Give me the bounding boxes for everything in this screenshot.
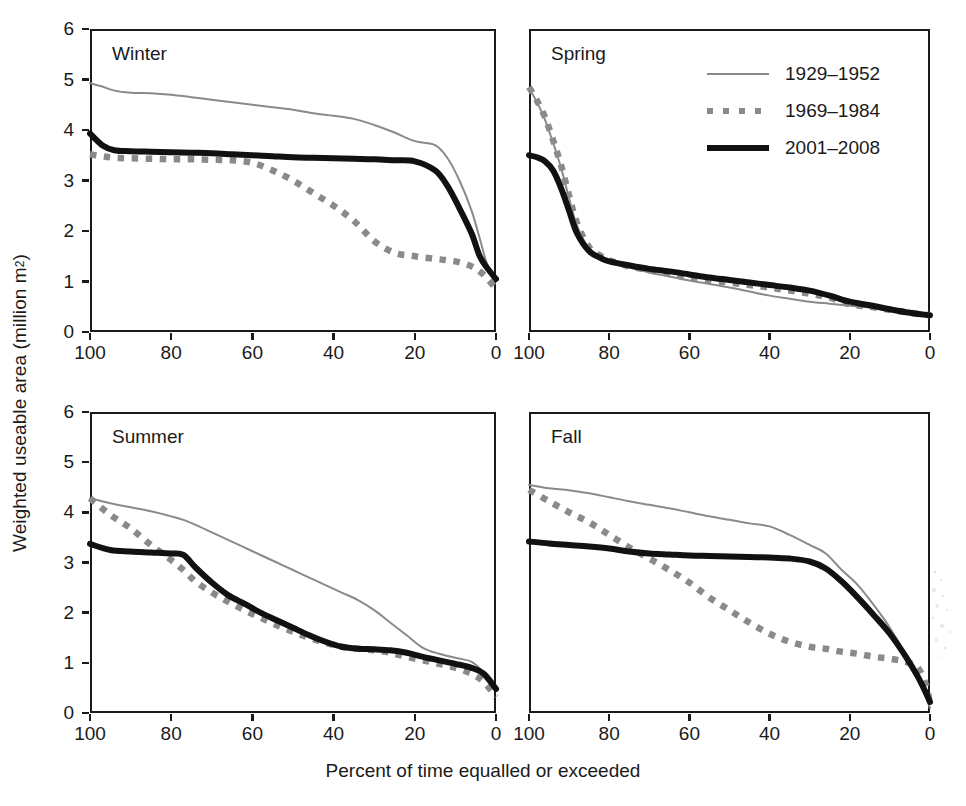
x-tick-mark xyxy=(251,714,254,721)
x-tick-mark xyxy=(849,714,852,721)
y-tick-label: 5 xyxy=(48,70,74,89)
series-line-2001-2008 xyxy=(90,134,496,279)
x-tick-label: 100 xyxy=(60,724,120,743)
x-tick-label: 80 xyxy=(141,343,201,362)
x-tick-label: 80 xyxy=(579,343,639,362)
x-tick-label: 60 xyxy=(222,343,282,362)
x-tick-mark xyxy=(528,333,531,340)
x-tick-label: 40 xyxy=(304,343,364,362)
series-line-2001-2008 xyxy=(529,155,930,315)
series-line-1929-1952 xyxy=(90,83,496,279)
legend-item-1969-1984[interactable]: 1969–1984 xyxy=(707,96,880,126)
series-line-2001-2008 xyxy=(529,541,930,702)
y-tick-mark xyxy=(82,78,89,81)
y-tick-mark xyxy=(82,461,89,464)
y-tick-label: 4 xyxy=(48,502,74,521)
curves-summer xyxy=(90,412,496,713)
panel-spring: Spring 1929–1952 1969–1984 2001–2008 xyxy=(529,29,930,332)
scan-smudge-artifact xyxy=(925,560,965,670)
y-tick-mark xyxy=(82,280,89,283)
y-tick-mark xyxy=(82,561,89,564)
x-tick-label: 80 xyxy=(579,724,639,743)
x-tick-label: 100 xyxy=(499,724,559,743)
x-tick-mark xyxy=(495,333,498,340)
y-tick-label: 0 xyxy=(48,703,74,722)
x-tick-label: 100 xyxy=(499,343,559,362)
y-tick-label: 2 xyxy=(48,603,74,622)
y-tick-mark xyxy=(82,230,89,233)
y-axis-title-main: Weighted useable area (million m xyxy=(9,267,31,552)
series-line-1969-1984 xyxy=(529,490,930,703)
x-tick-label: 60 xyxy=(222,724,282,743)
y-tick-mark xyxy=(82,611,89,614)
y-tick-mark xyxy=(82,129,89,132)
series-line-1969-1984 xyxy=(90,498,496,697)
y-tick-label: 5 xyxy=(48,452,74,471)
y-tick-label: 1 xyxy=(48,272,74,291)
x-tick-label: 20 xyxy=(820,724,880,743)
panel-fall: Fall xyxy=(529,412,930,713)
panel-winter: Winter xyxy=(90,29,496,332)
legend-item-2001-2008[interactable]: 2001–2008 xyxy=(707,133,880,163)
x-tick-label: 40 xyxy=(740,343,800,362)
x-tick-mark xyxy=(170,714,173,721)
y-tick-mark xyxy=(82,411,89,414)
panel-summer: Summer xyxy=(90,412,496,713)
legend-swatch-thin-gray-line-icon xyxy=(707,68,769,80)
x-tick-label: 40 xyxy=(304,724,364,743)
y-tick-label: 0 xyxy=(48,322,74,341)
y-tick-label: 3 xyxy=(48,171,74,190)
legend-item-1929-1952[interactable]: 1929–1952 xyxy=(707,59,880,89)
curves-winter xyxy=(90,29,496,332)
x-tick-mark xyxy=(332,714,335,721)
legend-swatch-gray-dotted-line-icon xyxy=(707,105,769,117)
y-tick-mark xyxy=(82,662,89,665)
y-tick-mark xyxy=(82,179,89,182)
x-tick-mark xyxy=(528,714,531,721)
x-tick-mark xyxy=(251,333,254,340)
x-tick-mark xyxy=(849,333,852,340)
y-tick-label: 1 xyxy=(48,653,74,672)
series-line-2001-2008 xyxy=(90,544,496,689)
x-tick-mark xyxy=(929,333,932,340)
x-tick-label: 100 xyxy=(60,343,120,362)
x-tick-label: 0 xyxy=(900,343,960,362)
figure-root: Weighted useable area (million m2) Perce… xyxy=(0,0,966,806)
legend-label-1929-1952: 1929–1952 xyxy=(785,63,880,85)
y-tick-mark xyxy=(82,511,89,514)
x-tick-mark xyxy=(688,333,691,340)
y-tick-label: 6 xyxy=(48,19,74,38)
y-tick-label: 2 xyxy=(48,221,74,240)
x-tick-label: 0 xyxy=(900,724,960,743)
x-tick-label: 20 xyxy=(820,343,880,362)
x-tick-mark xyxy=(414,714,417,721)
x-tick-label: 40 xyxy=(740,724,800,743)
x-tick-mark xyxy=(495,714,498,721)
y-tick-label: 4 xyxy=(48,120,74,139)
curves-fall xyxy=(529,412,930,713)
series-line-1969-1984 xyxy=(90,154,496,289)
legend-swatch-thick-black-line-icon xyxy=(707,142,769,154)
y-tick-label: 3 xyxy=(48,553,74,572)
y-axis-title: Weighted useable area (million m2) xyxy=(0,0,40,806)
y-tick-label: 6 xyxy=(48,402,74,421)
y-tick-mark xyxy=(82,28,89,31)
x-tick-mark xyxy=(688,714,691,721)
x-tick-label: 60 xyxy=(659,724,719,743)
x-tick-mark xyxy=(608,714,611,721)
y-axis-title-tail: ) xyxy=(9,254,31,260)
x-tick-label: 20 xyxy=(385,724,445,743)
x-tick-mark xyxy=(768,714,771,721)
x-tick-label: 60 xyxy=(659,343,719,362)
chart-legend: 1929–1952 1969–1984 2001–2008 xyxy=(707,59,922,164)
x-tick-label: 20 xyxy=(385,343,445,362)
x-tick-mark xyxy=(89,714,92,721)
x-tick-mark xyxy=(929,714,932,721)
legend-label-2001-2008: 2001–2008 xyxy=(785,137,880,159)
x-tick-mark xyxy=(332,333,335,340)
x-tick-mark xyxy=(89,333,92,340)
x-tick-mark xyxy=(608,333,611,340)
legend-label-1969-1984: 1969–1984 xyxy=(785,100,880,122)
x-tick-label: 80 xyxy=(141,724,201,743)
x-tick-mark xyxy=(170,333,173,340)
